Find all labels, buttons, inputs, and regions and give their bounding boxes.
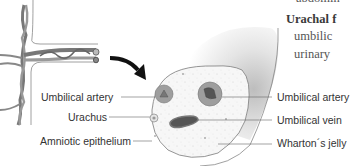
label-umbilical-vein: Umbilical vein (277, 114, 342, 126)
arrow-icon (110, 58, 146, 80)
side-text-line4: urinary (294, 47, 330, 62)
label-urachus: Urachus (68, 111, 107, 123)
side-text-line3: umbilic (294, 29, 332, 44)
cord-cross-section (150, 66, 249, 158)
side-text-heading: Urachal f (286, 12, 336, 27)
cord-insertion-illustration (0, 0, 99, 125)
whartons-jelly (152, 66, 249, 158)
label-amniotic-epithelium: Amniotic epithelium (40, 135, 131, 147)
label-umbilical-artery-right: Umbilical artery (277, 91, 349, 103)
label-umbilical-artery-left: Umbilical artery (41, 91, 113, 103)
side-text-line1: abdomin (296, 0, 340, 6)
label-whartons-jelly: Wharton´s jelly (277, 137, 346, 149)
